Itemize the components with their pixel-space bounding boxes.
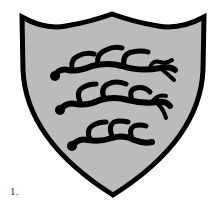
shield-figure	[0, 0, 216, 212]
figure-caption: 1.	[10, 187, 19, 197]
shield-icon	[22, 14, 204, 195]
